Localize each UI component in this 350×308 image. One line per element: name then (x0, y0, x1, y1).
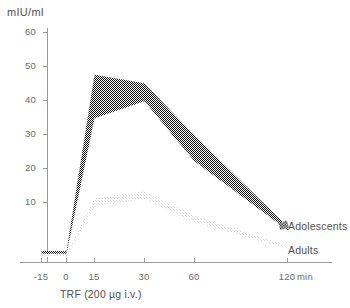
chart-figure: mIU/ml 60 50 40 30 20 10 -15 0 15 30 60 … (0, 0, 350, 308)
chart-plot-svg (0, 0, 350, 308)
series-band-adolescents (42, 75, 289, 254)
